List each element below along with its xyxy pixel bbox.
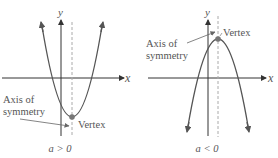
vertex-label: Vertex	[78, 119, 106, 130]
caption-a-positive: a > 0	[49, 143, 73, 154]
axis-of-symmetry-label-line2: symmetry	[146, 50, 189, 61]
caption-a-negative: a < 0	[196, 143, 220, 154]
vertex-point	[215, 36, 221, 42]
axis-of-symmetry-pointer	[187, 32, 215, 43]
axis-of-symmetry-label-line1: Axis of	[146, 38, 178, 49]
x-axis-label: x	[124, 71, 131, 85]
parabola-diagram: x y Axis of symmetry Vertex a > 0 x y Ve…	[0, 0, 278, 158]
axis-of-symmetry-label-line1: Axis of	[3, 94, 35, 105]
y-axis-label: y	[57, 6, 63, 18]
vertex-point	[69, 114, 75, 120]
vertex-pointer	[220, 33, 222, 36]
x-axis-label: x	[267, 71, 274, 85]
panel-upward-parabola: x y Axis of symmetry Vertex a > 0	[2, 6, 131, 154]
panel-downward-parabola: x y Vertex Axis of symmetry a < 0	[146, 6, 274, 154]
axis-of-symmetry-label-line2: symmetry	[3, 106, 46, 117]
vertex-label: Vertex	[223, 27, 251, 38]
axis-of-symmetry-pointer	[20, 119, 69, 126]
y-axis-label: y	[204, 6, 210, 18]
